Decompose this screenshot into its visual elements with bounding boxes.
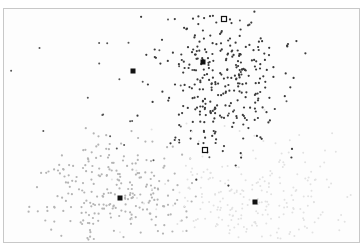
data-point — [101, 114, 103, 116]
data-point — [167, 180, 169, 182]
data-point — [268, 204, 270, 206]
data-point — [304, 52, 306, 54]
data-point — [266, 206, 268, 208]
data-point — [187, 107, 189, 109]
data-point — [133, 194, 135, 196]
data-point — [209, 61, 211, 63]
data-point — [255, 222, 257, 224]
data-point — [228, 232, 230, 234]
data-point — [78, 188, 80, 190]
data-point — [258, 202, 260, 204]
data-point — [203, 74, 205, 76]
data-point — [57, 169, 59, 171]
data-point — [266, 201, 268, 203]
data-point — [225, 58, 227, 60]
data-point — [237, 99, 239, 101]
data-point — [120, 143, 122, 145]
data-point — [209, 177, 211, 179]
data-point — [128, 42, 130, 44]
data-point — [314, 221, 316, 223]
data-point — [215, 142, 217, 144]
data-point — [82, 167, 84, 169]
data-point — [204, 98, 206, 100]
hollow-centroid-marker — [203, 148, 208, 153]
data-point — [154, 48, 156, 50]
data-point — [98, 213, 100, 215]
data-point — [209, 15, 211, 17]
data-point — [263, 53, 265, 55]
data-point — [237, 223, 239, 225]
data-point — [202, 155, 204, 157]
data-point — [257, 92, 259, 94]
data-point — [337, 219, 339, 221]
data-point — [216, 223, 218, 225]
data-point — [178, 63, 180, 65]
data-point — [259, 178, 261, 180]
data-point — [239, 35, 241, 37]
data-point — [135, 216, 137, 218]
data-point — [259, 78, 261, 80]
data-point — [69, 220, 71, 222]
data-point — [218, 217, 220, 219]
data-point — [238, 236, 240, 238]
data-point — [180, 126, 182, 128]
data-point — [89, 229, 91, 231]
centroid-marker — [118, 196, 123, 201]
data-point — [278, 161, 280, 163]
data-point — [193, 97, 195, 99]
data-point — [285, 72, 287, 74]
data-point — [235, 210, 237, 212]
data-point — [189, 158, 191, 160]
data-point — [91, 165, 93, 167]
data-point — [210, 172, 212, 174]
data-point — [136, 115, 138, 117]
data-point — [262, 75, 264, 77]
data-point — [283, 190, 285, 192]
data-point — [186, 216, 188, 218]
data-point — [174, 203, 176, 205]
data-point — [255, 210, 257, 212]
data-point — [116, 148, 118, 150]
data-point — [177, 140, 179, 142]
data-point — [198, 140, 200, 142]
data-point — [215, 21, 217, 23]
data-point — [85, 200, 87, 202]
data-point — [172, 205, 174, 207]
data-point — [214, 112, 216, 114]
data-point — [151, 197, 153, 199]
data-point — [229, 18, 231, 20]
data-point — [100, 155, 102, 157]
data-point — [208, 178, 210, 180]
data-point — [92, 223, 94, 225]
data-point — [109, 212, 111, 214]
data-point — [239, 19, 241, 21]
data-point — [261, 236, 263, 238]
data-point — [239, 69, 241, 71]
data-point — [319, 165, 321, 167]
data-point — [182, 72, 184, 74]
data-point — [268, 186, 270, 188]
data-point — [117, 179, 119, 181]
data-point — [223, 145, 225, 147]
data-point — [227, 84, 229, 86]
data-point — [293, 235, 295, 237]
data-point — [169, 142, 171, 144]
data-point — [119, 231, 121, 233]
data-point — [237, 60, 239, 62]
data-point — [171, 230, 173, 232]
data-point — [227, 77, 229, 79]
data-point — [103, 204, 105, 206]
data-point — [80, 206, 82, 208]
data-point — [192, 48, 194, 50]
data-point — [118, 78, 120, 80]
data-point — [129, 192, 131, 194]
data-point — [61, 197, 63, 199]
data-point — [85, 127, 87, 129]
data-point — [156, 204, 158, 206]
data-point — [262, 106, 264, 108]
data-point — [146, 184, 148, 186]
data-point — [59, 172, 61, 174]
data-point — [213, 117, 215, 119]
data-point — [97, 135, 99, 137]
data-point — [245, 231, 247, 233]
